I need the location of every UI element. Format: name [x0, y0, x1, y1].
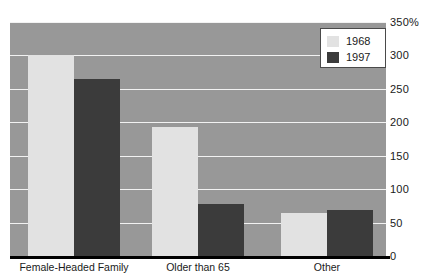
legend-swatch-1997 — [327, 52, 339, 63]
legend-item: 1997 — [327, 49, 385, 65]
y-axis-tick-label: 100 — [390, 184, 409, 195]
bar-1997-0 — [74, 79, 120, 256]
bar-1997-2 — [327, 210, 373, 256]
legend-label-1968: 1968 — [346, 36, 370, 47]
bar-1968-0 — [28, 55, 74, 256]
y-axis-tick-label: 300 — [390, 50, 409, 61]
legend-item: 1968 — [327, 33, 385, 49]
y-axis-tick-label: 50 — [390, 218, 403, 229]
x-axis-tick-label: Female-Headed Family — [4, 261, 144, 273]
bar-chart: 350%300250200150100500 Female-Headed Fam… — [0, 0, 431, 279]
bar-1968-2 — [281, 213, 327, 256]
bar-1997-1 — [198, 204, 244, 256]
legend-swatch-1968 — [327, 36, 339, 47]
x-axis-tick-label: Older than 65 — [128, 261, 268, 273]
x-axis: Female-Headed FamilyOlder than 65Other — [0, 261, 431, 279]
y-axis: 350%300250200150100500 — [390, 0, 431, 279]
bar-1968-1 — [152, 127, 198, 256]
y-axis-tick-label: 350% — [390, 17, 419, 28]
y-axis-tick-label: 250 — [390, 84, 409, 95]
y-axis-tick-label: 150 — [390, 151, 409, 162]
x-axis-tick-label: Other — [257, 261, 397, 273]
y-axis-tick-label: 200 — [390, 117, 409, 128]
legend: 1968 1997 — [320, 28, 386, 68]
gridline — [10, 22, 386, 23]
legend-label-1997: 1997 — [346, 52, 370, 63]
x-axis-line — [10, 256, 390, 259]
